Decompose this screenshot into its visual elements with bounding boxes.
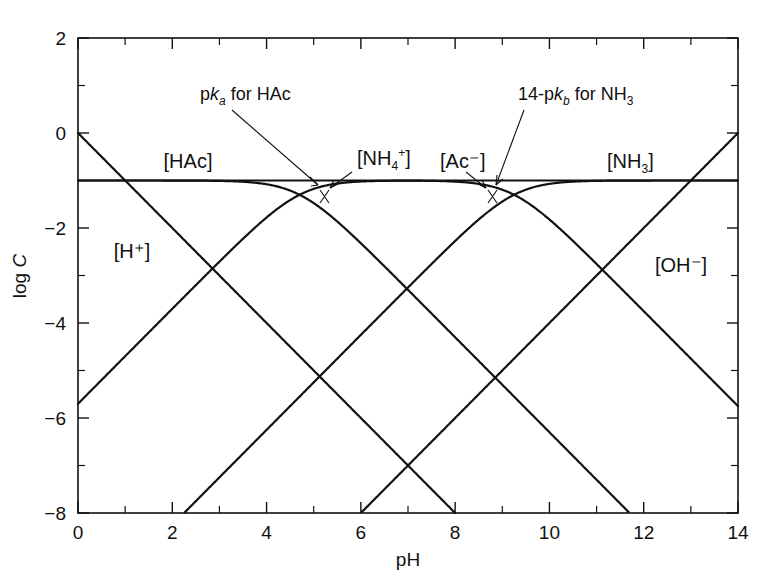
x-axis-title: pH bbox=[396, 549, 420, 570]
x-tick-label: 6 bbox=[356, 522, 367, 543]
x-tick-label: 12 bbox=[633, 522, 654, 543]
species-label-h-plus: [H⁺] bbox=[114, 240, 151, 262]
figure-background bbox=[0, 0, 770, 588]
x-tick-label: 14 bbox=[727, 522, 749, 543]
chart-svg: 02468101214 −8−6−4−202 pH log C [HAc] [H… bbox=[0, 0, 770, 588]
y-tick-label: −4 bbox=[44, 313, 66, 334]
svg-text:log C: log C bbox=[9, 254, 30, 299]
y-tick-label: −2 bbox=[44, 218, 66, 239]
y-tick-label: 0 bbox=[55, 123, 66, 144]
species-label-hydroxide: [OH⁻] bbox=[655, 254, 707, 276]
x-tick-label: 0 bbox=[73, 522, 84, 543]
x-tick-label: 10 bbox=[539, 522, 560, 543]
y-tick-label: −6 bbox=[44, 408, 66, 429]
x-tick-label: 8 bbox=[450, 522, 461, 543]
x-tick-label: 4 bbox=[261, 522, 272, 543]
species-label-hac: [HAc] bbox=[164, 150, 213, 172]
y-axis-title: log C bbox=[9, 254, 30, 299]
y-tick-label: 2 bbox=[55, 28, 66, 49]
log-concentration-diagram: 02468101214 −8−6−4−202 pH log C [HAc] [H… bbox=[0, 0, 770, 588]
x-tick-label: 2 bbox=[167, 522, 178, 543]
species-label-acetate: [Ac⁻] bbox=[440, 150, 485, 172]
y-tick-label: −8 bbox=[44, 503, 66, 524]
